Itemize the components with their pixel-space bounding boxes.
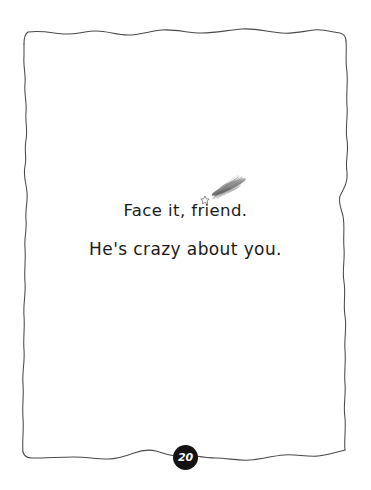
caption-line-2: He's crazy about you.	[0, 241, 371, 258]
page-number-badge: 20	[173, 445, 198, 470]
page-number-label: 20	[178, 452, 193, 463]
book-page: Face it, friend. He's crazy about you. 2…	[0, 0, 371, 490]
caption-block: Face it, friend. He's crazy about you.	[0, 203, 371, 258]
caption-line-1: Face it, friend.	[0, 203, 371, 220]
